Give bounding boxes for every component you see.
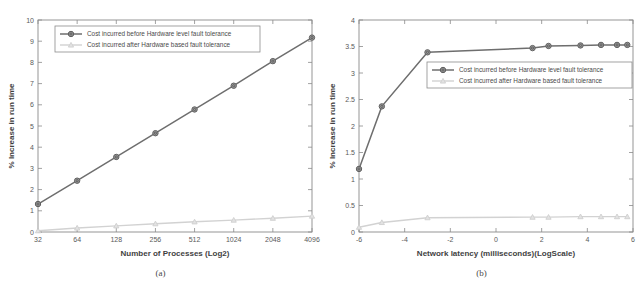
y-tick-label-b: 4 bbox=[351, 17, 355, 24]
data-point-b bbox=[614, 42, 619, 47]
y-tick-label-b: 1.5 bbox=[345, 149, 355, 156]
x-tick-label-a: 32 bbox=[34, 236, 42, 243]
y-tick-label-a: 7 bbox=[30, 80, 34, 87]
data-point-a bbox=[270, 58, 275, 63]
y-tick-label-b: 3.5 bbox=[345, 43, 355, 50]
y-tick-label-b: 1 bbox=[351, 176, 355, 183]
data-point-a bbox=[153, 131, 158, 136]
x-tick-label-b: 6 bbox=[631, 236, 635, 243]
y-tick-label-a: 9 bbox=[30, 38, 34, 45]
legend-label-a: Cost incurred after Hardware based fault… bbox=[87, 41, 231, 48]
y-tick-label-a: 10 bbox=[26, 17, 34, 24]
legend-label-b: Cost incurred after Hardware based fault… bbox=[459, 77, 603, 84]
data-point-b bbox=[379, 104, 384, 109]
data-point-b bbox=[425, 50, 430, 55]
y-tick-label-a: 6 bbox=[30, 101, 34, 108]
data-point-a bbox=[74, 178, 79, 183]
chart-panel-b: 00.511.522.533.54-6-4-20246Network laten… bbox=[321, 0, 642, 291]
data-point-b bbox=[625, 42, 630, 47]
x-tick-label-b: -6 bbox=[356, 236, 362, 243]
y-tick-label-a: 1 bbox=[30, 207, 34, 214]
data-point-b bbox=[356, 166, 361, 171]
data-point-b bbox=[578, 43, 583, 48]
x-tick-label-a: 1024 bbox=[226, 236, 242, 243]
x-tick-label-a: 2048 bbox=[265, 236, 281, 243]
data-point-b bbox=[546, 43, 551, 48]
y-tick-label-a: 3 bbox=[30, 165, 34, 172]
y-axis-title-b: % Increase in run time bbox=[328, 83, 337, 168]
panel-a-caption: (a) bbox=[0, 268, 321, 278]
chart-a-svg: 0123456789103264128256512102420484096Num… bbox=[0, 0, 321, 265]
x-tick-label-a: 64 bbox=[73, 236, 81, 243]
chart-panel-a: 0123456789103264128256512102420484096Num… bbox=[0, 0, 321, 291]
figure-container: 0123456789103264128256512102420484096Num… bbox=[0, 0, 642, 291]
plot-frame-b bbox=[359, 20, 633, 232]
x-tick-label-b: -4 bbox=[402, 236, 408, 243]
data-point-a bbox=[192, 107, 197, 112]
data-point-b bbox=[530, 45, 535, 50]
y-tick-label-b: 2.5 bbox=[345, 96, 355, 103]
x-tick-label-a: 4096 bbox=[304, 236, 320, 243]
x-tick-label-b: 0 bbox=[494, 236, 498, 243]
x-tick-label-a: 128 bbox=[110, 236, 122, 243]
legend-label-b: Cost incurred before Hardware level faul… bbox=[459, 66, 604, 73]
data-point-a bbox=[35, 201, 40, 206]
data-point-a bbox=[309, 35, 314, 40]
data-point-a bbox=[231, 83, 236, 88]
x-tick-label-a: 256 bbox=[150, 236, 162, 243]
y-axis-title-a: % Increase in run time bbox=[7, 83, 16, 168]
x-tick-label-b: 2 bbox=[540, 236, 544, 243]
chart-b-svg: 00.511.522.533.54-6-4-20246Network laten… bbox=[321, 0, 642, 265]
legend-label-a: Cost incurred before Hardware level faul… bbox=[87, 30, 232, 37]
data-point-b bbox=[598, 42, 603, 47]
x-tick-label-a: 512 bbox=[189, 236, 201, 243]
y-tick-label-a: 8 bbox=[30, 59, 34, 66]
series-line-b-1 bbox=[359, 217, 627, 228]
legend-marker-b bbox=[440, 67, 445, 72]
y-tick-label-a: 4 bbox=[30, 144, 34, 151]
y-tick-label-b: 2 bbox=[351, 123, 355, 130]
x-axis-title-b: Network latency (milliseconds)(LogScale) bbox=[417, 249, 576, 258]
y-tick-label-a: 2 bbox=[30, 186, 34, 193]
y-tick-label-b: 3 bbox=[351, 70, 355, 77]
x-axis-title-a: Number of Processes (Log2) bbox=[121, 249, 230, 258]
panel-b-caption: (b) bbox=[321, 268, 642, 278]
x-tick-label-b: 4 bbox=[585, 236, 589, 243]
legend-marker-a bbox=[68, 31, 73, 36]
y-tick-label-b: 0 bbox=[351, 229, 355, 236]
y-tick-label-b: 0.5 bbox=[345, 202, 355, 209]
x-tick-label-b: -2 bbox=[447, 236, 453, 243]
y-tick-label-a: 0 bbox=[30, 229, 34, 236]
y-tick-label-a: 5 bbox=[30, 123, 34, 130]
data-point-a bbox=[114, 154, 119, 159]
